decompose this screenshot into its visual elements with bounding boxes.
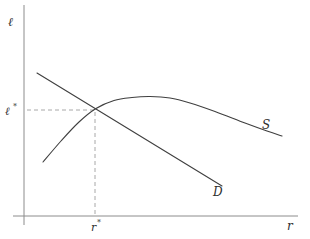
curve-plot: ℓ r ℓ * r * S D	[0, 0, 310, 239]
axes-layer	[13, 5, 298, 225]
l-star-superscript: *	[13, 102, 17, 111]
demand-curve-label: D	[212, 185, 223, 199]
series-curves-layer	[37, 73, 282, 186]
supply-curve	[43, 96, 282, 162]
figure: ℓ r ℓ * r * S D	[0, 0, 310, 239]
l-star-label: ℓ	[5, 105, 10, 118]
dashed-guides-layer	[27, 110, 95, 215]
y-axis-label: ℓ	[8, 15, 13, 29]
demand-curve	[37, 73, 222, 186]
r-star-superscript: *	[97, 218, 101, 227]
x-axis-label: r	[287, 219, 294, 233]
supply-curve-label: S	[262, 118, 270, 132]
